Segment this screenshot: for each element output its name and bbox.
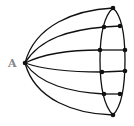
node-l4 [102, 92, 107, 97]
node-r1 [118, 24, 123, 29]
node-a [23, 61, 28, 66]
node-l2 [98, 48, 103, 53]
rung-1 [104, 26, 120, 27]
inner-arc [100, 8, 113, 115]
edge-a-l4 [25, 63, 104, 94]
node-r3 [123, 69, 128, 74]
edge-a-l2 [25, 50, 100, 63]
node-a-label: A [7, 57, 17, 70]
graph-diagram: A [0, 0, 134, 126]
node-r2 [123, 48, 128, 53]
node-bottom [111, 113, 116, 118]
edge-a-l3 [25, 63, 102, 72]
node-l1 [102, 25, 107, 30]
rung-3 [102, 71, 125, 72]
node-l3 [100, 70, 105, 75]
node-r4 [118, 92, 123, 97]
node-top [111, 6, 116, 11]
